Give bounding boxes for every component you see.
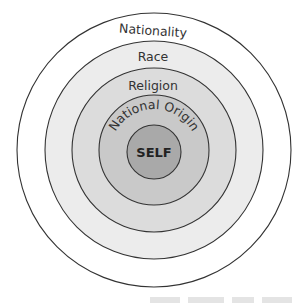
- label-religion: Religion: [128, 78, 178, 93]
- label-race: Race: [138, 49, 169, 64]
- cropped-caption: [150, 297, 300, 303]
- concentric-diagram: Nationality Race Religion National Origi…: [0, 0, 308, 303]
- label-self: SELF: [136, 145, 171, 160]
